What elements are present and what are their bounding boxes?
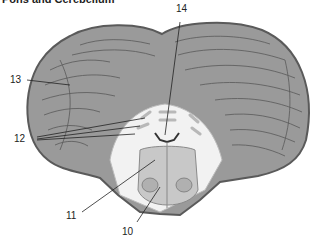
label-13: 13	[10, 75, 21, 85]
pons	[138, 146, 198, 205]
pons-cerebellum-illustration	[0, 0, 326, 247]
label-11: 11	[66, 211, 76, 221]
label-10: 10	[122, 227, 133, 237]
label-14: 14	[176, 4, 187, 14]
label-12: 12	[14, 134, 25, 144]
